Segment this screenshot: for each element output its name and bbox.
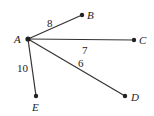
node-c-dot bbox=[132, 38, 136, 42]
edge-a-c bbox=[28, 39, 134, 40]
edge-weight-label: 10 bbox=[17, 62, 29, 74]
weighted-graph: 87610 ABCDE bbox=[0, 0, 154, 116]
node-b-dot bbox=[80, 13, 84, 17]
node-d-dot bbox=[123, 94, 127, 98]
node-a-dot bbox=[25, 36, 30, 41]
edge-weight-label: 6 bbox=[78, 57, 84, 69]
node-d-label: D bbox=[130, 91, 139, 103]
node-c-label: C bbox=[139, 34, 147, 46]
node-a-label: A bbox=[13, 33, 21, 45]
node-b-label: B bbox=[87, 9, 94, 21]
edge-a-b bbox=[28, 15, 82, 39]
edge-weight-label: 7 bbox=[82, 44, 88, 56]
edge-a-d bbox=[28, 39, 125, 96]
edge-weight-label: 8 bbox=[47, 17, 53, 29]
edge-a-e bbox=[28, 39, 36, 96]
node-e-dot bbox=[34, 94, 38, 98]
node-e-label: E bbox=[31, 101, 39, 113]
